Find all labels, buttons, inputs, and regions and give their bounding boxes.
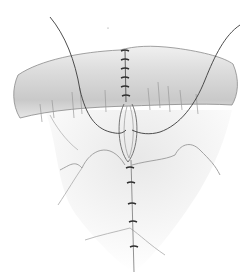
illustration-svg <box>0 0 251 279</box>
speck <box>107 27 108 28</box>
surgical-illustration <box>0 0 251 279</box>
lower-tissue <box>45 110 232 272</box>
